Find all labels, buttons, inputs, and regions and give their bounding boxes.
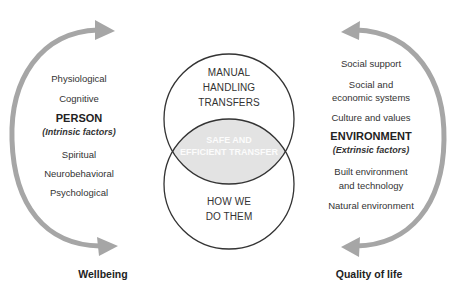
top-circle-label-line1: MANUAL [208, 67, 250, 80]
environment-factor-social-economic-line2: economic systems [332, 92, 410, 103]
top-circle-label-line3: TRANSFERS [198, 97, 259, 110]
environment-title: ENVIRONMENT [330, 131, 411, 142]
environment-factor-built-line2: and technology [339, 180, 403, 191]
overlap-label-line2: EFFICIENT TRANSFER [180, 147, 278, 158]
person-subtitle: (Intrinsic factors) [42, 127, 116, 138]
person-factor-spiritual: Spiritual [62, 149, 96, 160]
person-factor-psychological: Psychological [50, 187, 108, 198]
bottom-circle-label-line2: DO THEM [206, 211, 253, 224]
overlap-label-line1: SAFE AND [206, 135, 252, 146]
environment-factor-social-economic-line1: Social and [349, 79, 393, 90]
environment-subtitle: (Extrinsic factors) [333, 145, 410, 156]
quality-of-life-label: Quality of life [336, 268, 403, 280]
bottom-circle-label-line1: HOW WE [207, 196, 251, 209]
person-factor-physiological: Physiological [51, 73, 106, 84]
person-factor-cognitive: Cognitive [59, 93, 99, 104]
person-factor-neurobehavioral: Neurobehavioral [44, 168, 114, 179]
left-cycle-arrow-icon [12, 20, 118, 256]
top-circle-label-line2: HANDLING [203, 82, 255, 95]
environment-factor-culture-values: Culture and values [331, 112, 410, 123]
environment-factor-built-line1: Built environment [334, 166, 407, 177]
environment-factor-natural: Natural environment [328, 200, 414, 211]
wellbeing-label: Wellbeing [78, 268, 127, 280]
person-title: PERSON [56, 113, 102, 124]
environment-factor-social-support: Social support [341, 58, 401, 69]
